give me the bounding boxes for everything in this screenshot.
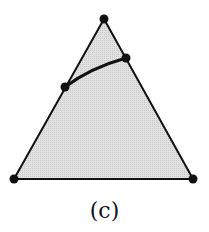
vertex-bottom-right: [189, 175, 198, 184]
figure-caption: (c): [0, 198, 209, 223]
vertex-top: [100, 15, 109, 24]
vertex-bottom-left: [10, 175, 19, 184]
left-edge-point: [61, 83, 70, 92]
right-edge-point: [122, 54, 131, 63]
shaded-triangle: [14, 19, 193, 179]
